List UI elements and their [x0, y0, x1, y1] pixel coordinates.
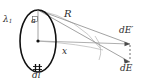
- label-dE-prime-text: dE: [119, 25, 131, 35]
- label-dE: dE: [120, 64, 132, 73]
- label-dE-prime-mark: ′: [131, 25, 133, 35]
- label-dl: dl: [32, 71, 41, 80]
- arrowhead-dE-prime: [125, 42, 131, 46]
- ray-R-lower: [38, 10, 130, 62]
- axis-x-line: [38, 41, 130, 44]
- ring-center-point: [36, 39, 39, 42]
- label-lambda-subscript: 1: [9, 18, 13, 24]
- label-lambda: λ1: [3, 15, 12, 25]
- label-radius-R: R: [64, 9, 72, 19]
- ray-R-upper: [38, 10, 130, 44]
- label-distance-x: x: [62, 47, 67, 56]
- label-angle-a: a: [31, 17, 36, 25]
- label-dE-prime: dE′: [119, 26, 133, 35]
- ring-field-diagram: λ1 a R x dE′ dE dl: [0, 0, 148, 84]
